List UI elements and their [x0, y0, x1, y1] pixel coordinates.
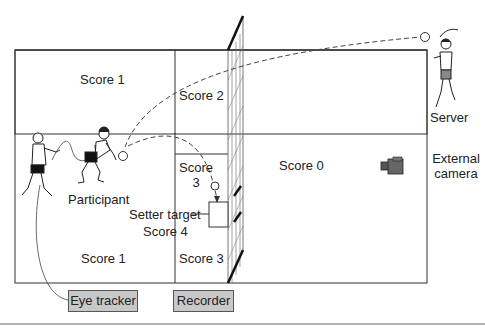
- zone-label-left-bottom: Score 1: [81, 251, 126, 266]
- setter-target-box: [209, 202, 228, 227]
- court-diagram: [0, 0, 485, 333]
- zone-label-mid-top: Score 2: [179, 88, 224, 103]
- ball-served: [421, 33, 430, 42]
- setter-target-score-label: Score 4: [143, 224, 188, 239]
- ball-participant: [119, 152, 128, 161]
- participant-label: Participant: [68, 192, 129, 207]
- recorder-box: Recorder: [173, 290, 234, 312]
- eye-tracker-box: Eye tracker: [68, 290, 138, 312]
- zone-label-mid-center-line1: Score: [176, 160, 216, 175]
- participant-figure: [78, 127, 116, 183]
- external-camera-icon: [381, 157, 403, 174]
- zone-label-mid-bottom: Score 3: [179, 251, 224, 266]
- zone-label-mid-center: Score 3: [176, 160, 216, 190]
- setter-target-label: Setter target: [129, 207, 201, 222]
- external-camera-label-line2: camera: [430, 166, 482, 181]
- zone-label-opponent: Score 0: [279, 158, 324, 173]
- zone-label-left-top: Score 1: [80, 72, 125, 87]
- external-camera-label: External camera: [430, 151, 482, 181]
- server-figure: [434, 29, 458, 107]
- server-label: Server: [430, 110, 468, 125]
- zone-label-mid-center-line2: 3: [176, 175, 216, 190]
- external-camera-label-line1: External: [430, 151, 482, 166]
- eye-tracker-operator-figure: [22, 133, 60, 196]
